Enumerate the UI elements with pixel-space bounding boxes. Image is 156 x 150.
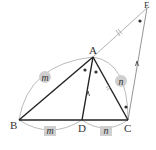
geometry-diagram: m m n n A B C D E (0, 0, 156, 150)
label-dc-n: n (100, 125, 112, 136)
point-label-e: E (144, 0, 150, 10)
label-bd-m: m (44, 125, 56, 136)
svg-text:m: m (46, 125, 53, 136)
segment-ad (82, 57, 93, 120)
svg-text:n: n (119, 76, 124, 87)
label-ac-n: n (115, 75, 127, 87)
svg-text:m: m (41, 72, 48, 83)
point-label-b: B (10, 119, 17, 131)
line-ae (93, 8, 147, 57)
angle-dot-dac (94, 70, 97, 73)
angle-dot-e (138, 19, 141, 22)
point-label-a: A (89, 44, 97, 56)
angle-dot-bad (83, 68, 86, 71)
point-label-c: C (124, 122, 131, 134)
angle-dot-acE (124, 105, 127, 108)
point-label-d: D (78, 122, 86, 134)
svg-text:n: n (104, 125, 109, 136)
label-ab-m: m (39, 71, 51, 83)
side-ac (93, 57, 128, 120)
side-ab (19, 57, 93, 120)
